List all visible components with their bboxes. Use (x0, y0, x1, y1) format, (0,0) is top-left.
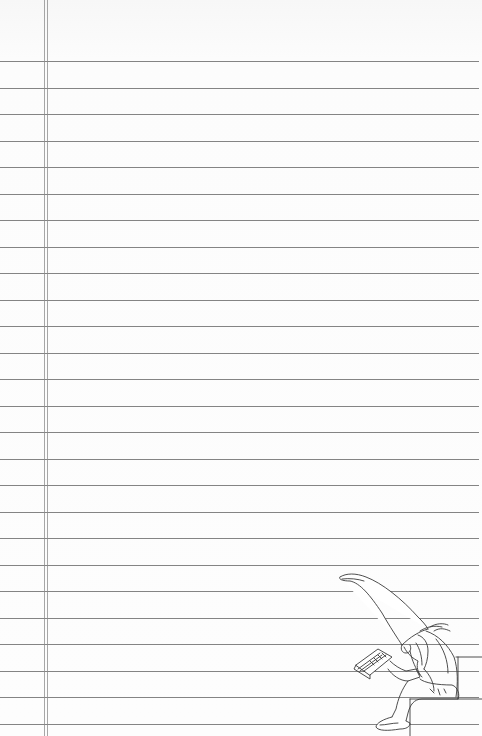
margin-line-right (47, 0, 48, 736)
ruled-line (0, 61, 479, 62)
ruled-line (0, 512, 479, 513)
margin-line-left (44, 0, 45, 736)
ruled-line (0, 167, 479, 168)
ruled-line (0, 300, 479, 301)
ruled-line (0, 220, 479, 221)
gnome-reading-illustration (330, 565, 482, 736)
ruled-line (0, 538, 479, 539)
ruled-line (0, 273, 479, 274)
ruled-line (0, 485, 479, 486)
ruled-line (0, 194, 479, 195)
ruled-line (0, 326, 479, 327)
ruled-line (0, 379, 479, 380)
ruled-line (0, 88, 479, 89)
ruled-line (0, 247, 479, 248)
ruled-line (0, 406, 479, 407)
ruled-line (0, 141, 479, 142)
ruled-line (0, 114, 479, 115)
ruled-line (0, 459, 479, 460)
ruled-line (0, 432, 479, 433)
ruled-line (0, 353, 479, 354)
lined-paper-page (0, 0, 482, 736)
